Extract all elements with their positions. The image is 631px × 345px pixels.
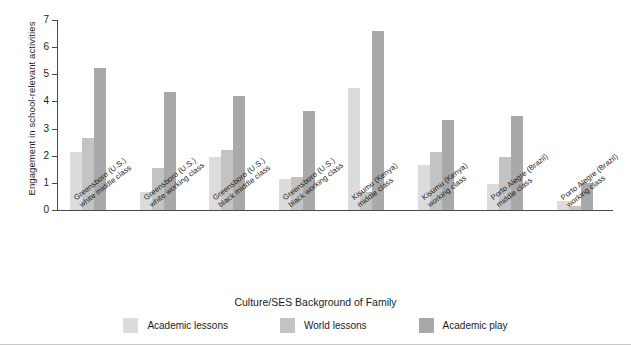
y-tick-mark [52, 129, 57, 130]
y-tick-label: 6 [43, 42, 49, 52]
chart-legend: Academic lessonsWorld lessonsAcademic pl… [0, 318, 631, 333]
legend-item[interactable]: World lessons [280, 318, 367, 333]
legend-label: Academic lessons [147, 320, 228, 331]
y-tick-mark [52, 183, 57, 184]
x-axis-line [57, 210, 613, 211]
y-tick-label: 5 [43, 69, 49, 79]
y-tick-mark [52, 210, 57, 211]
y-tick-label: 3 [43, 124, 49, 134]
y-tick-mark [52, 20, 57, 21]
y-axis-line [57, 20, 58, 210]
x-axis-title: Culture/SES Background of Family [0, 296, 631, 308]
legend-swatch [419, 318, 434, 333]
legend-swatch [123, 318, 138, 333]
legend-item[interactable]: Academic play [419, 318, 508, 333]
y-tick-mark [52, 74, 57, 75]
y-axis-title: Engagement in school-relevant activities [26, 4, 37, 214]
y-tick-mark [52, 47, 57, 48]
y-tick-mark [52, 156, 57, 157]
legend-swatch [280, 318, 295, 333]
y-tick-label: 0 [43, 205, 49, 215]
y-tick-label: 1 [43, 178, 49, 188]
y-tick-label: 7 [43, 15, 49, 25]
y-tick-label: 2 [43, 151, 49, 161]
y-tick-mark [52, 101, 57, 102]
legend-label: World lessons [304, 320, 367, 331]
legend-label: Academic play [443, 320, 508, 331]
y-tick-label: 4 [43, 96, 49, 106]
bar-chart-figure: Engagement in school-relevant activities… [0, 0, 631, 345]
legend-item[interactable]: Academic lessons [123, 318, 228, 333]
